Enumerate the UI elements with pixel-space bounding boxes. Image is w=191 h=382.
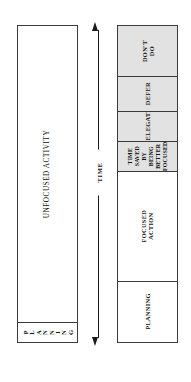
focused-column: DON'T DO DEFER DELEGATE TIME SAVED BY BE… [117,25,178,343]
segment-defer: DEFER [118,76,177,111]
planning-letters-group: P L A N N I N G [18,329,77,336]
time-axis-label: TIME [95,150,104,196]
arrow-head-down-icon [92,337,98,346]
segment-planning-left: P L A N N I N G [18,322,77,342]
time-axis: TIME [88,22,110,346]
segment-dont-do: DON'T DO [118,26,177,76]
diagram-canvas: UNFOCUSED ACTIVITY P L A N N I N G TIME [0,0,191,382]
segment-label-dont-do: DON'T DO [140,40,154,62]
unfocused-column: UNFOCUSED ACTIVITY P L A N N I N G [17,25,78,343]
segment-label-focused-action-line2: ACTION [147,210,154,243]
segment-label-dont-do-line2: DO [148,40,155,62]
segment-label-focused-action: FOCUSED ACTION [140,210,154,243]
segment-label-dont-do-line1: DON'T [140,40,147,62]
segment-label-time-saved-line4: BEING [148,142,155,171]
segment-label-planning-right: PLANNING [144,294,151,330]
planning-letter-g: G [66,329,73,335]
segment-label-time-saved-line5: BETTER [155,142,162,171]
segment-unfocused-activity: UNFOCUSED ACTIVITY [18,26,77,322]
segment-planning-right: PLANNING [118,281,177,342]
segment-label-defer: DEFER [144,82,151,105]
segment-label-time-saved-line1: TIME [126,142,133,171]
segment-label-unfocused-activity: UNFOCUSED ACTIVITY [43,130,51,218]
segment-label-time-saved: TIME SAVED BY BEING BETTER FOCUSED [126,142,168,171]
segment-label-time-saved-line2: SAVED [133,142,140,171]
segment-label-time-saved-line3: BY [140,142,147,171]
segment-focused-action: FOCUSED ACTION [118,171,177,281]
segment-time-saved: TIME SAVED BY BEING BETTER FOCUSED [118,141,177,171]
segment-delegate: DELEGATE [118,111,177,141]
segment-label-delegate: DELEGATE [144,111,151,141]
segment-label-time-saved-line6: FOCUSED [162,142,169,171]
